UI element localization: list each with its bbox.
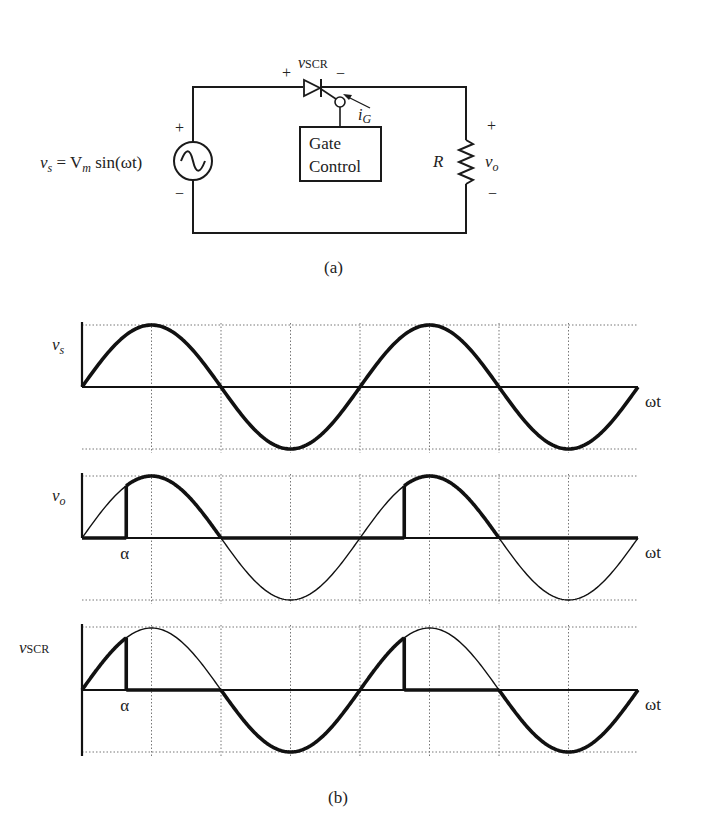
vscr-blocking-segment <box>360 638 404 690</box>
scr-rectifier-figure: + − vs = Vm sin(ωt) + − vSCR iG Gate Con… <box>0 0 703 821</box>
waveform-panels: vsωtvoωtαvSCRωtα <box>19 322 661 756</box>
output-minus: − <box>488 185 497 202</box>
caption-b: (b) <box>328 788 348 807</box>
output-voltage-label: vo <box>485 152 499 174</box>
alpha-label: α <box>120 696 129 715</box>
panel-y-label: vs <box>52 335 65 357</box>
x-axis-label: ωt <box>645 392 661 411</box>
scr-minus: − <box>336 65 345 82</box>
waveform-panel-1: vsωt <box>52 322 661 449</box>
resistor-label: R <box>432 152 444 171</box>
waveform-panel-3: vSCRωtα <box>19 624 661 756</box>
panel-y-label: vo <box>52 486 66 508</box>
vo-conduction-segment <box>404 476 499 538</box>
vscr-blocking-segment <box>82 638 126 690</box>
x-axis-label: ωt <box>645 695 661 714</box>
source-minus: − <box>175 185 184 202</box>
output-plus: + <box>487 117 496 134</box>
source-equation: vs = Vm sin(ωt) <box>40 153 142 175</box>
gate-box-line1: Gate <box>309 134 341 153</box>
sine-glyph-icon <box>181 151 205 171</box>
waveform-panel-2: voωtα <box>52 473 661 600</box>
resistor-icon <box>459 140 473 184</box>
circuit-diagram: + − vs = Vm sin(ωt) + − vSCR iG Gate Con… <box>40 54 499 277</box>
scr-voltage-label: vSCR <box>298 54 328 71</box>
vo-conduction-segment <box>126 476 221 538</box>
panel-y-label: vSCR <box>19 638 49 657</box>
gate-box-line2: Control <box>309 157 361 176</box>
caption-a: (a) <box>324 258 343 277</box>
gate-current-label: iG <box>358 106 371 126</box>
source-plus: + <box>175 119 184 136</box>
x-axis-label: ωt <box>645 543 661 562</box>
gate-current-arrow-icon <box>343 94 370 108</box>
alpha-label: α <box>120 544 129 563</box>
scr-plus: + <box>282 64 291 81</box>
